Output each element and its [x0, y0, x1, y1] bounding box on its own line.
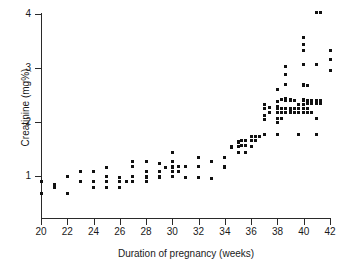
data-point: [171, 175, 174, 178]
data-point: [306, 84, 309, 87]
data-point: [254, 139, 257, 142]
data-point: [284, 73, 287, 76]
y-axis-title: Creatinine (mg%): [20, 23, 31, 193]
data-point: [210, 160, 213, 163]
data-point: [268, 111, 271, 114]
data-point: [315, 63, 318, 66]
data-point: [263, 133, 266, 136]
y-tick-2: [35, 122, 42, 123]
scatter-plot-figure: 1234 202224262830323436384042 Duration o…: [0, 0, 348, 268]
data-point: [131, 180, 134, 183]
data-point: [284, 111, 287, 114]
x-tick-32: [199, 219, 200, 225]
data-point: [171, 151, 174, 154]
data-point: [158, 170, 161, 173]
data-point: [53, 186, 56, 189]
data-point: [171, 166, 174, 169]
data-point: [40, 192, 43, 195]
data-point: [250, 135, 253, 138]
x-tick-36: [251, 219, 252, 225]
data-point: [184, 176, 187, 179]
data-point: [268, 106, 271, 109]
x-tick-label-40: 40: [292, 227, 316, 237]
data-point: [306, 111, 309, 114]
data-point: [92, 170, 95, 173]
x-axis-title: Duration of pregnancy (weeks): [41, 248, 331, 259]
x-tick-26: [120, 219, 121, 225]
data-point: [66, 192, 69, 195]
data-point: [284, 107, 287, 110]
x-tick-40: [304, 219, 305, 225]
data-point: [302, 103, 305, 106]
data-point: [197, 176, 200, 179]
data-point: [276, 100, 279, 103]
data-point: [184, 165, 187, 168]
x-tick-label-20: 20: [29, 227, 53, 237]
x-tick-42: [330, 219, 331, 225]
data-point: [289, 99, 292, 102]
data-point: [244, 151, 247, 154]
data-point: [293, 99, 296, 102]
data-point: [237, 151, 240, 154]
data-point: [258, 135, 261, 138]
x-tick-label-22: 22: [55, 227, 79, 237]
data-point: [293, 111, 296, 114]
data-point: [131, 160, 134, 163]
data-point: [105, 175, 108, 178]
x-axis-line: [41, 218, 331, 219]
data-point: [240, 144, 243, 147]
x-tick-24: [94, 219, 95, 225]
y-tick-3: [35, 68, 42, 69]
data-point: [230, 146, 233, 149]
data-point: [280, 98, 283, 101]
data-point: [276, 88, 279, 91]
data-point: [293, 107, 296, 110]
data-point: [276, 117, 279, 120]
data-point: [118, 186, 121, 189]
data-point: [315, 11, 318, 14]
x-tick-38: [277, 219, 278, 225]
data-point: [158, 162, 161, 165]
data-point: [66, 175, 69, 178]
data-point: [284, 83, 287, 86]
data-point: [302, 84, 305, 87]
data-point: [319, 11, 322, 14]
data-point: [131, 175, 134, 178]
data-point: [145, 180, 148, 183]
data-point: [237, 145, 240, 148]
data-point: [297, 107, 300, 110]
y-tick-4: [35, 14, 42, 15]
data-point: [250, 139, 253, 142]
x-tick-20: [41, 219, 42, 225]
y-axis-line: [41, 13, 42, 219]
data-point: [302, 99, 305, 102]
data-point: [164, 166, 167, 169]
data-point: [79, 170, 82, 173]
data-point: [223, 156, 226, 159]
x-tick-label-30: 30: [160, 227, 184, 237]
x-tick-28: [146, 219, 147, 225]
x-tick-34: [225, 219, 226, 225]
data-point: [302, 36, 305, 39]
data-point: [315, 117, 318, 120]
data-point: [302, 49, 305, 52]
data-point: [263, 114, 266, 117]
data-point: [250, 145, 253, 148]
x-tick-label-24: 24: [82, 227, 106, 237]
data-point: [171, 170, 174, 173]
data-point: [302, 107, 305, 110]
data-point: [210, 177, 213, 180]
data-point: [302, 63, 305, 66]
data-point: [118, 180, 121, 183]
data-point: [280, 107, 283, 110]
plot-area: 1234 202224262830323436384042 Duration o…: [0, 0, 348, 268]
data-point: [92, 180, 95, 183]
data-point: [280, 111, 283, 114]
data-point: [263, 107, 266, 110]
data-point: [319, 102, 322, 105]
data-point: [310, 111, 313, 114]
data-point: [315, 133, 318, 136]
x-tick-22: [67, 219, 68, 225]
x-tick-label-42: 42: [318, 227, 342, 237]
x-tick-label-32: 32: [187, 227, 211, 237]
